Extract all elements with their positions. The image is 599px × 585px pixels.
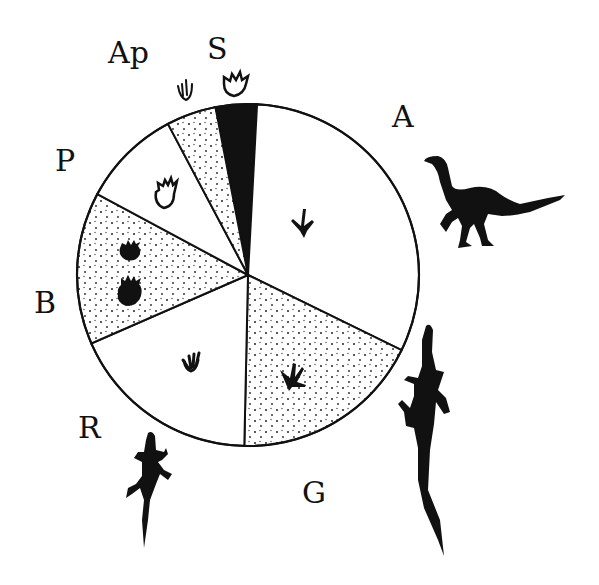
label-g: G [302,478,326,508]
label-ap: Ap [108,38,149,68]
label-a: A [392,102,414,132]
lizard-silhouette-large-icon [398,325,450,556]
s-clawed-footprint-icon [224,72,248,96]
pie-slices [77,104,419,446]
label-s: S [207,34,228,64]
slender-finger-print-icon [178,80,192,100]
label-b: B [34,288,56,318]
pie-chart [0,0,599,585]
label-r: R [78,413,101,443]
theropod-dinosaur-silhouette-icon [424,156,565,248]
lizard-silhouette-small-icon [126,432,172,548]
label-p: P [55,146,75,176]
